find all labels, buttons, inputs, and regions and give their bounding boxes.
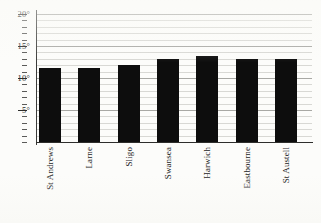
bar (118, 65, 140, 142)
y-axis-tick-label: 5° (4, 106, 30, 115)
bar-chart: 20°15°10°5° St AndrewsLarneSligoSwanseaH… (0, 0, 321, 223)
x-axis-category-label: Harwich (202, 147, 212, 179)
bar (275, 59, 297, 142)
y-axis-tick-label: 15° (4, 42, 30, 51)
x-axis-label-slot: St Andrews (38, 143, 62, 221)
x-axis-category-label: St Andrews (45, 147, 55, 190)
x-axis-label-slot: Harwich (195, 143, 219, 221)
bars-group (36, 10, 312, 143)
x-axis-category-label: Sligo (124, 147, 134, 167)
y-axis-tick-label: 20° (4, 10, 30, 19)
bar (39, 68, 61, 142)
bar (157, 59, 179, 142)
x-axis-label-slot: St Austell (274, 143, 298, 221)
x-axis-label-slot: Swansea (156, 143, 180, 221)
bar (196, 56, 218, 142)
x-axis-labels: St AndrewsLarneSligoSwanseaHarwichEastbo… (36, 143, 312, 223)
bar (236, 59, 258, 142)
x-axis-label-slot: Sligo (117, 143, 141, 221)
y-axis-labels: 20°15°10°5° (0, 0, 30, 223)
bar (78, 68, 100, 142)
x-axis-category-label: Swansea (163, 147, 173, 179)
y-axis-tick-label: 10° (4, 74, 30, 83)
x-axis-label-slot: Larne (77, 143, 101, 221)
x-axis-category-label: St Austell (281, 147, 291, 183)
x-axis-category-label: Larne (84, 147, 94, 168)
x-axis-category-label: Eastbourne (242, 147, 252, 189)
x-axis-label-slot: Eastbourne (235, 143, 259, 221)
